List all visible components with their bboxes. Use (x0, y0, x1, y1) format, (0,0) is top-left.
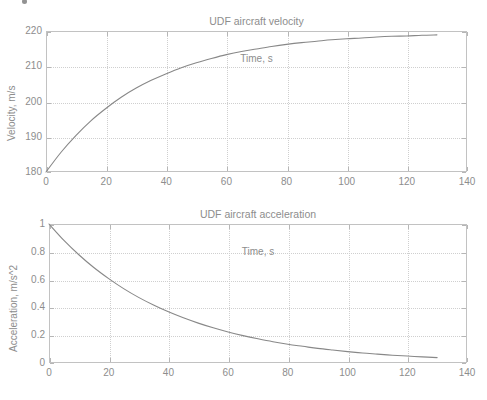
y-tick-label: 0.4 (5, 301, 45, 312)
acceleration-chart: UDF aircraft acceleration Time, s Accele… (49, 224, 467, 363)
x-tick-label: 100 (328, 367, 368, 378)
y-tick-label: 0.6 (5, 274, 45, 285)
velocity-xaxis-label: Time, s (46, 53, 467, 64)
x-tick-label: 100 (327, 176, 367, 187)
acceleration-xaxis-label: Time, s (49, 246, 467, 257)
y-axis-tick (47, 172, 51, 173)
velocity-chart-title: UDF aircraft velocity (46, 15, 467, 27)
x-tick-label: 40 (148, 367, 188, 378)
y-axis-tick (462, 363, 466, 364)
y-axis-tick (50, 363, 54, 364)
y-tick-label: 200 (2, 96, 42, 107)
y-tick-label: 210 (2, 60, 42, 71)
x-tick-label: 120 (387, 367, 427, 378)
x-tick-label: 140 (447, 367, 487, 378)
y-tick-label: 190 (2, 131, 42, 142)
x-tick-label: 80 (268, 367, 308, 378)
x-tick-label: 60 (206, 176, 246, 187)
x-tick-label: 0 (29, 367, 69, 378)
y-axis-tick (462, 172, 466, 173)
x-tick-label: 80 (267, 176, 307, 187)
x-tick-label: 60 (208, 367, 248, 378)
y-tick-label: 0.8 (5, 246, 45, 257)
acceleration-chart-title: UDF aircraft acceleration (49, 208, 467, 220)
acceleration-curve (49, 224, 467, 363)
x-tick-label: 120 (387, 176, 427, 187)
x-axis-tick (467, 225, 468, 229)
footer-ghost-text (214, 392, 274, 400)
y-tick-label: 180 (2, 166, 42, 177)
x-axis-tick (467, 32, 468, 36)
cropped-header-text (22, 0, 442, 5)
x-axis-tick (467, 358, 468, 362)
x-tick-label: 20 (86, 176, 126, 187)
y-tick-label: 0 (5, 357, 45, 368)
x-tick-label: 40 (146, 176, 186, 187)
x-tick-label: 0 (26, 176, 66, 187)
x-tick-label: 140 (447, 176, 487, 187)
bullet-icon (22, 0, 27, 4)
y-tick-label: 0.2 (5, 329, 45, 340)
velocity-chart: UDF aircraft velocity Time, s Velocity, … (46, 31, 467, 172)
screenshot-root: UDF aircraft velocity Time, s Velocity, … (0, 0, 487, 400)
y-tick-label: 220 (2, 25, 42, 36)
x-axis-tick (467, 167, 468, 171)
x-tick-label: 20 (89, 367, 129, 378)
y-tick-label: 1 (5, 218, 45, 229)
data-line-acceleration (49, 224, 437, 358)
